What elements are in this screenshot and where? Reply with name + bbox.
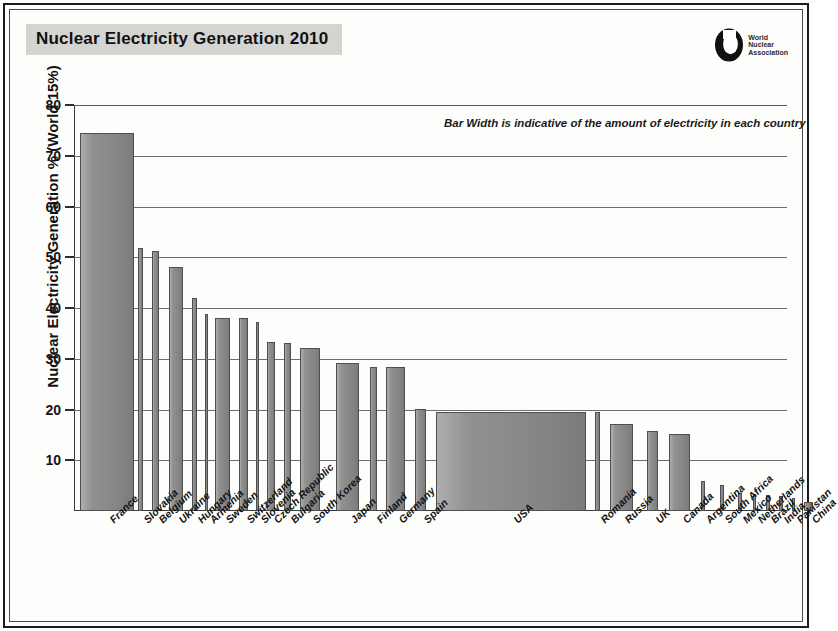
bar-usa: [436, 412, 586, 511]
bar-romania: [595, 412, 600, 511]
y-tick-mark: [65, 256, 74, 258]
x-axis-labels: FranceSlovakiaBelgiumUkraineHungaryArmen…: [0, 511, 812, 621]
bar-sweden: [215, 318, 230, 511]
y-axis-title: Nuclear Electricity Generation % (World …: [44, 27, 61, 427]
y-tick-mark: [65, 358, 74, 360]
bar-canada: [669, 434, 690, 511]
bar-slovakia: [138, 248, 143, 511]
bar-switzerland: [239, 318, 248, 511]
page-title: Nuclear Electricity Generation 2010: [26, 24, 342, 55]
plot-area: [74, 105, 787, 511]
world-nuclear-association-logo: World Nuclear Association: [714, 28, 788, 62]
logo-line-3: Association: [748, 49, 788, 57]
bar-armenia: [205, 314, 208, 511]
y-tick-mark: [65, 409, 74, 411]
logo-line-2: Nuclear: [748, 41, 788, 49]
page-title-text: Nuclear Electricity Generation 2010: [36, 29, 328, 48]
y-tick-mark: [65, 206, 74, 208]
bar-slovenia: [256, 322, 259, 511]
bar-ukraine: [169, 267, 183, 511]
bar-germany: [386, 367, 405, 511]
y-tick-mark: [65, 307, 74, 309]
y-tick-mark: [65, 459, 74, 461]
bar-finland: [370, 367, 377, 511]
bar-hungary: [192, 298, 197, 511]
y-tick-mark: [65, 155, 74, 157]
gridline-80: [74, 105, 787, 106]
bar-belgium: [152, 251, 159, 511]
wna-logo-text: World Nuclear Association: [748, 34, 788, 57]
logo-line-1: World: [748, 34, 788, 42]
gridline-50: [74, 257, 787, 258]
y-tick-mark: [65, 104, 74, 106]
gridline-70: [74, 156, 787, 157]
bar-width-annotation: Bar Width is indicative of the amount of…: [444, 117, 806, 129]
y-axis: 8070605040302010: [0, 105, 74, 511]
wna-ring-icon: [714, 28, 744, 62]
bar-france: [80, 133, 134, 511]
gridline-60: [74, 207, 787, 208]
y-tick-label: 10: [45, 450, 61, 470]
